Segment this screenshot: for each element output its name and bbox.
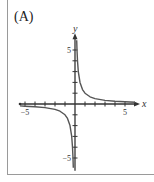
y-tick-label-5: 5 xyxy=(67,46,71,55)
curve-branch-positive xyxy=(77,40,135,102)
x-tick-label-neg5: −5 xyxy=(21,108,30,117)
hyperbola-plot: −555−5xy xyxy=(0,0,154,182)
y-axis-label: y xyxy=(72,23,78,34)
y-tick-label-neg5: −5 xyxy=(62,154,71,163)
x-tick-label-5: 5 xyxy=(123,108,127,117)
x-axis-left-end xyxy=(19,103,22,106)
x-axis-label: x xyxy=(141,98,147,109)
